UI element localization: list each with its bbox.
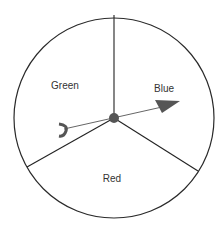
spinner-diagram: Green Blue Red bbox=[0, 0, 221, 232]
section-label-blue: Blue bbox=[154, 83, 174, 94]
section-label-red: Red bbox=[103, 173, 121, 184]
pivot-icon bbox=[109, 113, 119, 123]
section-label-green: Green bbox=[51, 80, 79, 91]
